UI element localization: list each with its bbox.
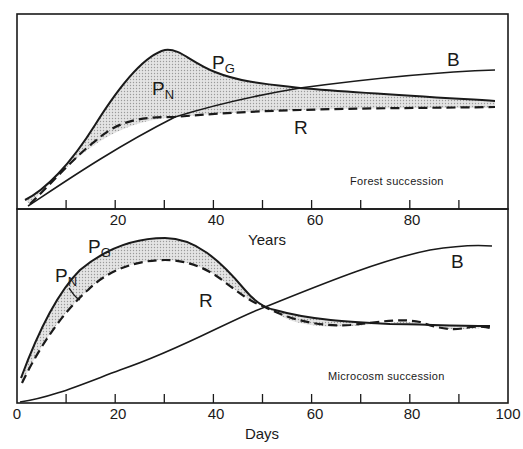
forest-b-label: B: [447, 49, 460, 71]
microcosm-tick-0: 0: [13, 405, 21, 422]
microcosm-tick-20: 20: [110, 405, 127, 422]
microcosm-tick-60: 60: [307, 405, 324, 422]
forest-x-ticks: [66, 200, 459, 209]
microcosm-pn-label: PN: [55, 265, 77, 289]
microcosm-r-label: R: [199, 290, 213, 312]
microcosm-pg-label: PG: [88, 236, 111, 260]
forest-x-axis-title: Years: [248, 231, 286, 248]
microcosm-tick-100: 100: [495, 405, 520, 422]
forest-tick-20: 20: [110, 211, 127, 228]
forest-r-label: R: [294, 117, 308, 139]
forest-tick-80: 80: [404, 211, 421, 228]
microcosm-b-label: B: [451, 251, 464, 273]
microcosm-panel-title: Microcosm succession: [328, 370, 445, 382]
microcosm-tick-80: 80: [404, 405, 421, 422]
forest-panel-title: Forest succession: [350, 175, 444, 187]
forest-tick-60: 60: [307, 211, 324, 228]
forest-tick-40: 40: [208, 211, 225, 228]
forest-pg-label: PG: [212, 52, 235, 76]
microcosm-x-axis-title: Days: [245, 425, 279, 442]
forest-pn-label: PN: [152, 78, 174, 102]
microcosm-tick-40: 40: [208, 405, 225, 422]
microcosm-x-ticks: [66, 394, 459, 403]
